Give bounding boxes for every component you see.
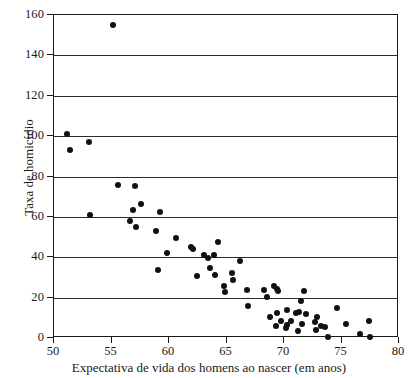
gridline-y-60 xyxy=(54,217,397,218)
data-point xyxy=(267,314,273,320)
data-point xyxy=(264,294,270,300)
data-point xyxy=(301,288,307,294)
x-tick-label-60: 60 xyxy=(153,345,183,358)
data-point xyxy=(299,321,305,327)
x-tick-60 xyxy=(168,337,169,343)
data-point xyxy=(303,311,309,317)
data-point xyxy=(325,334,331,340)
data-point xyxy=(357,331,363,337)
data-point xyxy=(67,147,73,153)
data-point xyxy=(173,235,179,241)
data-point xyxy=(87,212,93,218)
data-point xyxy=(274,310,280,316)
data-point xyxy=(288,318,294,324)
y-tick-100 xyxy=(47,135,53,136)
y-tick-label-140: 140 xyxy=(25,48,44,61)
data-point xyxy=(133,224,139,230)
y-tick-60 xyxy=(47,216,53,217)
gridline-y-140 xyxy=(54,55,397,56)
data-point xyxy=(261,287,267,293)
x-tick-70 xyxy=(283,337,284,343)
data-point xyxy=(153,228,159,234)
data-point xyxy=(273,323,279,329)
y-tick-40 xyxy=(47,256,53,257)
x-axis-label: Expectativa de vida dos homens ao nascer… xyxy=(0,360,418,375)
data-point xyxy=(221,283,227,289)
data-point xyxy=(278,318,284,324)
data-point xyxy=(322,324,328,330)
x-tick-50 xyxy=(53,337,54,343)
data-point xyxy=(275,288,281,294)
data-point xyxy=(110,22,116,28)
data-point xyxy=(295,328,301,334)
x-tick-65 xyxy=(226,337,227,343)
data-point xyxy=(222,289,228,295)
gridline-y-20 xyxy=(54,298,397,299)
data-point xyxy=(296,309,302,315)
data-point xyxy=(194,273,200,279)
data-point xyxy=(212,272,218,278)
gridline-y-40 xyxy=(54,257,397,258)
data-point xyxy=(157,209,163,215)
data-point xyxy=(245,303,251,309)
data-point xyxy=(229,270,235,276)
y-tick-20 xyxy=(47,297,53,298)
data-point xyxy=(115,182,121,188)
data-point xyxy=(138,201,144,207)
data-point xyxy=(343,321,349,327)
data-point xyxy=(215,239,221,245)
data-point xyxy=(164,250,170,256)
x-tick-label-80: 80 xyxy=(383,345,413,358)
x-tick-80 xyxy=(398,337,399,343)
y-tick-label-0: 0 xyxy=(38,331,44,344)
y-tick-label-160: 160 xyxy=(25,8,44,21)
y-tick-label-20: 20 xyxy=(31,291,44,304)
y-tick-80 xyxy=(47,176,53,177)
x-tick-label-55: 55 xyxy=(96,345,126,358)
data-point xyxy=(244,287,250,293)
data-point xyxy=(190,246,196,252)
gridline-y-80 xyxy=(54,177,397,178)
y-axis-label: Taxa de homicídio xyxy=(21,78,36,258)
y-tick-140 xyxy=(47,54,53,55)
x-tick-label-65: 65 xyxy=(211,345,241,358)
y-tick-160 xyxy=(47,14,53,15)
data-point xyxy=(205,255,211,261)
data-point xyxy=(284,307,290,313)
data-point xyxy=(314,314,320,320)
data-point xyxy=(230,277,236,283)
x-tick-label-50: 50 xyxy=(38,345,68,358)
gridline-y-120 xyxy=(54,96,397,97)
data-point xyxy=(130,207,136,213)
data-point xyxy=(155,267,161,273)
data-point xyxy=(367,334,373,340)
x-tick-label-70: 70 xyxy=(268,345,298,358)
x-tick-75 xyxy=(341,337,342,343)
data-point xyxy=(366,318,372,324)
plot-area xyxy=(53,14,398,337)
x-tick-label-75: 75 xyxy=(326,345,356,358)
data-point xyxy=(127,218,133,224)
data-point xyxy=(298,298,304,304)
data-point xyxy=(334,305,340,311)
data-point xyxy=(86,139,92,145)
data-point xyxy=(64,131,70,137)
scatter-plot-figure: 02040608010012014016050556065707580 Expe… xyxy=(0,0,418,378)
gridline-y-100 xyxy=(54,136,397,137)
y-tick-120 xyxy=(47,95,53,96)
data-point xyxy=(207,265,213,271)
data-point xyxy=(132,183,138,189)
x-tick-55 xyxy=(111,337,112,343)
data-point xyxy=(237,258,243,264)
